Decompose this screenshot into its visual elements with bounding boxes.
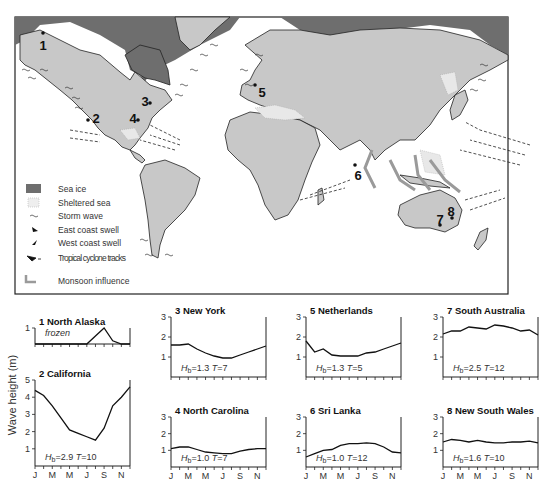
x-tick-label: J — [169, 471, 174, 480]
chart-panel: 4 North CarolinaJMMJSN123Hb=1.0 T=7 — [161, 405, 266, 480]
chart-title: 3 New York — [175, 305, 226, 316]
hb-t-annotation: Hb=1.6 T=10 — [453, 453, 504, 464]
x-tick-label: M — [457, 471, 465, 480]
legend-label: Tropical cyclone tracks — [58, 253, 126, 263]
y-tick-label: 4 — [25, 392, 30, 402]
x-tick-label: M — [66, 470, 74, 480]
wave-height-line — [443, 440, 538, 443]
chart-title: 1 North Alaska — [39, 316, 106, 327]
x-tick-label: J — [221, 471, 226, 480]
y-tick-label: 5 — [25, 375, 30, 385]
chart-panel: 2 CaliforniaJMMJSN12345Hb=2.9 T=10 — [25, 368, 130, 480]
chart-title: 4 North Carolina — [175, 405, 250, 416]
x-tick-label: J — [33, 470, 38, 480]
x-tick-label: M — [49, 470, 57, 480]
x-tick-label: J — [85, 470, 90, 480]
site-label-7: 7 — [436, 212, 443, 227]
y-tick-label: 1 — [433, 352, 438, 362]
chart-panel: 5 Netherlands123Hb=1.3 T=5 — [296, 305, 401, 380]
y-tick-label: 2 — [161, 429, 166, 439]
hb-t-annotation: Hb=1.3 T=7 — [181, 363, 227, 374]
x-tick-label: M — [474, 471, 482, 480]
chart-panel: 1 North Alaska1frozen — [25, 316, 130, 347]
wave-height-line — [443, 325, 538, 335]
hb-t-annotation: Hb=2.5 T=12 — [453, 363, 504, 374]
x-tick-label: J — [441, 471, 446, 480]
x-tick-label: M — [320, 471, 328, 480]
chart-panel: 6 Sri LankaJMMJSN123Hb=1.0 T=12 — [296, 405, 401, 480]
y-tick-label: 3 — [296, 412, 301, 422]
y-tick-label: 3 — [433, 312, 438, 322]
hb-t-annotation: Hb=1.0 T=12 — [316, 453, 367, 464]
chart-title: 8 New South Wales — [447, 405, 534, 416]
x-tick-label: S — [509, 471, 515, 480]
x-tick-label: N — [118, 470, 125, 480]
wave-height-line — [171, 344, 266, 358]
hb-t-annotation: Hb=2.9 T=10 — [45, 452, 96, 463]
hb-t-annotation: Hb=1.3 T=5 — [316, 363, 362, 374]
chart-title: 2 California — [39, 368, 91, 379]
x-tick-label: M — [185, 471, 193, 480]
x-tick-label: M — [202, 471, 210, 480]
x-tick-label: J — [493, 471, 498, 480]
y-tick-label: 3 — [296, 312, 301, 322]
legend-label: East coast swell — [58, 225, 119, 235]
x-tick-label: N — [254, 471, 261, 480]
y-tick-label: 2 — [25, 427, 30, 437]
x-tick-label: N — [389, 471, 396, 480]
y-tick-label: 1 — [161, 445, 166, 455]
x-tick-label: S — [372, 471, 378, 480]
x-tick-label: S — [101, 470, 107, 480]
y-tick-label: 2 — [433, 332, 438, 342]
legend-label: Storm wave — [58, 211, 103, 221]
y-axis-label: Wave height (m) — [6, 355, 18, 435]
y-tick-label: 2 — [296, 332, 301, 342]
y-tick-label: 2 — [433, 429, 438, 439]
site-label-2: 2 — [92, 111, 99, 126]
site-label-1: 1 — [39, 38, 46, 53]
legend-label: Sea ice — [58, 184, 87, 194]
chart-title: 5 Netherlands — [310, 305, 373, 316]
legend-label: Sheltered sea — [58, 198, 111, 208]
y-tick-label: 3 — [25, 409, 30, 419]
chart-panel: 7 South Australia123Hb=2.5 T=12 — [433, 305, 538, 380]
y-tick-label: 1 — [25, 323, 30, 333]
hb-t-annotation: Hb=1.0 T=7 — [181, 453, 227, 464]
wave-height-charts: Wave height (m) 1 North Alaska1frozen2 C… — [0, 300, 551, 480]
site-label-3: 3 — [141, 94, 148, 109]
chart-title: 6 Sri Lanka — [310, 405, 361, 416]
legend-label: Monsoon influence — [58, 276, 130, 286]
y-tick-label: 3 — [161, 312, 166, 322]
site-label-8: 8 — [447, 204, 454, 219]
x-tick-label: J — [356, 471, 361, 480]
site-label-5: 5 — [258, 85, 265, 100]
sea-ice-swatch — [26, 184, 41, 193]
chart-title: 7 South Australia — [447, 305, 525, 316]
x-tick-label: N — [526, 471, 533, 480]
y-tick-label: 2 — [296, 429, 301, 439]
y-tick-label: 1 — [433, 445, 438, 455]
x-tick-label: J — [304, 471, 309, 480]
x-tick-label: S — [237, 471, 243, 480]
chart-panel: 8 New South WalesJMMJSN123Hb=1.6 T=10 — [433, 405, 538, 480]
site-label-4: 4 — [129, 111, 137, 126]
y-tick-label: 2 — [161, 332, 166, 342]
chart-annotation: frozen — [45, 328, 70, 338]
y-tick-label: 3 — [433, 412, 438, 422]
y-tick-label: 1 — [161, 352, 166, 362]
chart-panel: 3 New York123Hb=1.3 T=7 — [161, 305, 266, 380]
y-tick-label: 1 — [296, 352, 301, 362]
sheltered-sea-swatch — [28, 198, 39, 207]
wave-height-line — [306, 341, 401, 356]
x-tick-label: M — [337, 471, 345, 480]
site-label-6: 6 — [354, 168, 361, 183]
y-tick-label: 1 — [25, 444, 30, 454]
y-tick-label: 1 — [296, 445, 301, 455]
world-wave-climate-map: 1 2 3 4 5 6 7 8 Sea ice Sheltered sea St… — [0, 0, 551, 300]
legend-label: West coast swell — [58, 238, 121, 248]
wave-height-line — [35, 387, 130, 440]
y-tick-label: 3 — [161, 412, 166, 422]
